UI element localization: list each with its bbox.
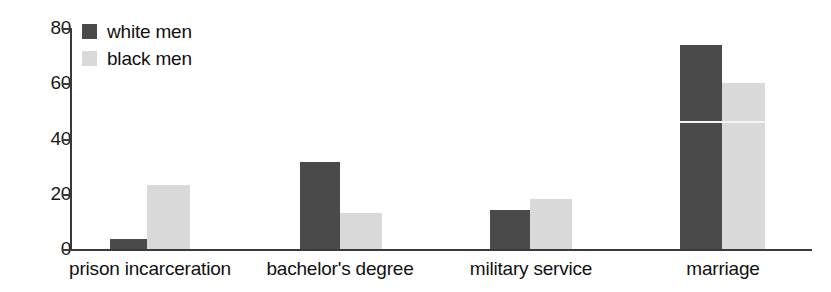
x-axis-label-military-service: military service [436,258,626,280]
legend-item-white-men: white men [82,18,192,45]
scan-artifact-line [680,121,765,123]
bar-military-service-white-men [490,210,530,249]
bar-bachelors-degree-black-men [340,213,382,249]
legend-item-black-men: black men [82,45,192,72]
y-axis-line [70,28,72,250]
x-axis-label-marriage: marriage [628,258,818,280]
bar-marriage-black-men [722,83,765,249]
bar-marriage-white-men [680,45,722,249]
legend-label-black-men: black men [107,49,192,68]
x-axis-line [70,249,812,251]
legend-swatch-white-men [82,24,97,39]
legend-swatch-black-men [82,51,97,66]
y-axis-tick-40: 40 [0,139,71,141]
bar-bachelors-degree-white-men [300,162,340,249]
bar-military-service-black-men [530,199,572,249]
x-axis-label-bachelors-degree: bachelor's degree [245,258,435,280]
x-axis-label-prison-incarceration: prison incarceration [45,258,255,280]
y-axis-tick-0: 0 [0,249,71,251]
bar-chart: white men black men 80 60 40 20 0 prison… [0,0,831,292]
y-axis-tick-60: 60 [0,83,71,85]
y-axis-tick-80: 80 [0,28,71,30]
bar-prison-incarceration-white-men [110,239,147,249]
legend-label-white-men: white men [107,22,192,41]
bar-prison-incarceration-black-men [147,185,190,249]
y-axis-tick-20: 20 [0,194,71,196]
chart-legend: white men black men [82,18,192,72]
